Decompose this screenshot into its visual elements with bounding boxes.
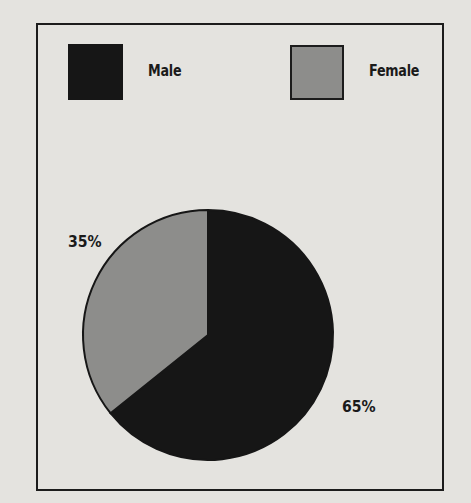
pie-chart [0, 0, 471, 503]
slice-label-male: 65% [342, 397, 376, 416]
slice-label-female: 35% [68, 232, 102, 251]
